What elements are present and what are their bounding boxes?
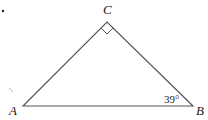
right-angle-marker xyxy=(101,28,113,34)
vertex-label-c: C xyxy=(103,2,112,17)
bullet-dot xyxy=(2,10,4,12)
vertex-label-b: B xyxy=(196,103,204,118)
angle-b-label: 39° xyxy=(164,93,179,105)
vertex-label-a: A xyxy=(8,103,17,118)
stray-mark xyxy=(9,88,13,92)
triangle-diagram: C A B 39° xyxy=(0,0,208,120)
